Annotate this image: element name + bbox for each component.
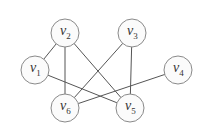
node-v1: v1 — [21, 56, 49, 84]
node-v3: v3 — [118, 19, 146, 47]
node-v5: v5 — [116, 94, 144, 122]
node-v6: v6 — [51, 94, 79, 122]
bipartite-graph-diagram: v1v2v3v4v5v6 — [0, 0, 210, 139]
node-v4: v4 — [164, 56, 192, 84]
node-v2: v2 — [51, 19, 79, 47]
nodes-layer: v1v2v3v4v5v6 — [21, 19, 192, 122]
